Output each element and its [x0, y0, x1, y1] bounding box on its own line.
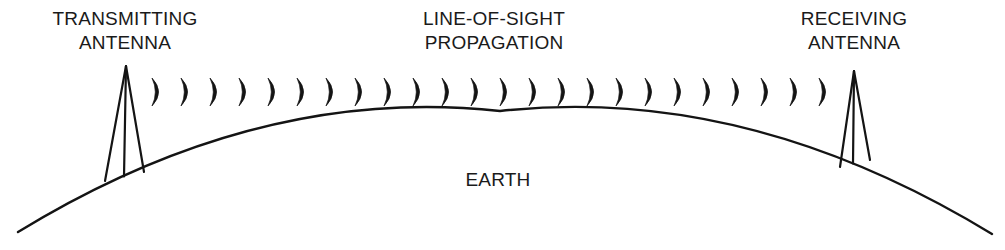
- earth-label: EARTH: [465, 169, 530, 190]
- transmitting-antenna-label-line2: ANTENNA: [79, 32, 171, 53]
- receiving-antenna-label-line1: RECEIVING: [801, 8, 907, 29]
- diagram-canvas: TRANSMITTING ANTENNA LINE-OF-SIGHT PROPA…: [0, 0, 1005, 250]
- propagation-label-line2: PROPAGATION: [425, 32, 564, 53]
- transmitting-antenna-label-line1: TRANSMITTING: [53, 8, 198, 29]
- receiving-antenna-label-line2: ANTENNA: [808, 32, 900, 53]
- propagation-label-line1: LINE-OF-SIGHT: [423, 8, 565, 29]
- line-of-sight-propagation-diagram: TRANSMITTING ANTENNA LINE-OF-SIGHT PROPA…: [0, 0, 1005, 250]
- receiving-antenna-center-mast: [853, 71, 854, 164]
